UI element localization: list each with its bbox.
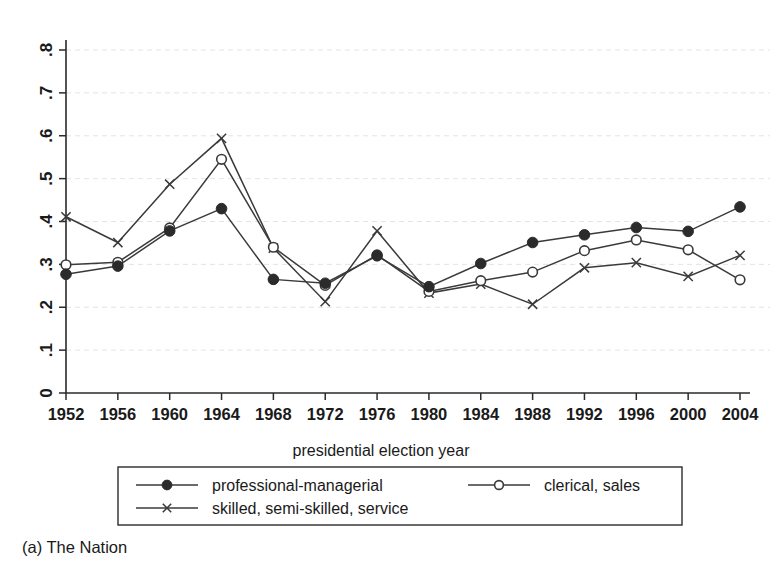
- marker-filled-circle: [164, 226, 175, 237]
- series-0: [61, 202, 746, 292]
- marker-open-circle: [476, 276, 486, 286]
- marker-filled-circle: [320, 278, 331, 289]
- x-tick-label: 2000: [670, 405, 707, 423]
- series-line: [66, 207, 740, 287]
- y-tick-label: 0: [37, 388, 56, 397]
- y-tick-label: .8: [37, 43, 56, 57]
- marker-filled-circle: [372, 251, 383, 262]
- marker-open-circle: [495, 481, 504, 490]
- marker-filled-circle: [162, 480, 172, 490]
- x-tick-label: 1976: [359, 405, 396, 423]
- marker-filled-circle: [424, 281, 435, 292]
- marker-cross-x: [528, 300, 537, 309]
- x-axis-ticks: 1952195619601964196819721976198019841988…: [48, 393, 760, 423]
- x-tick-label: 2004: [722, 405, 760, 423]
- series-1: [61, 155, 745, 297]
- gridlines: [66, 50, 770, 350]
- line-chart: 0.1.2.3.4.5.6.7.8 1952195619601964196819…: [0, 0, 779, 581]
- marker-open-circle: [580, 246, 590, 256]
- x-tick-label: 1984: [462, 405, 500, 423]
- marker-filled-circle: [735, 202, 746, 213]
- legend-label: skilled, semi-skilled, service: [212, 500, 409, 517]
- marker-filled-circle: [683, 226, 694, 237]
- x-tick-label: 1964: [203, 405, 241, 423]
- x-tick-label: 1996: [618, 405, 655, 423]
- marker-cross-x: [684, 272, 693, 281]
- x-tick-label: 1980: [411, 405, 448, 423]
- figure-caption: (a) The Nation: [22, 538, 127, 557]
- x-tick-label: 1968: [255, 405, 292, 423]
- y-tick-label: .7: [37, 86, 56, 100]
- y-tick-label: .2: [37, 300, 56, 314]
- y-tick-label: .4: [37, 214, 56, 229]
- marker-open-circle: [61, 260, 71, 270]
- y-tick-label: .6: [37, 129, 56, 143]
- figure-panel: 0.1.2.3.4.5.6.7.8 1952195619601964196819…: [0, 0, 779, 581]
- x-tick-label: 1956: [99, 405, 136, 423]
- marker-cross-x: [321, 297, 330, 306]
- marker-cross-x: [113, 238, 122, 247]
- y-tick-label: .1: [37, 343, 56, 357]
- marker-cross-x: [735, 251, 744, 260]
- marker-filled-circle: [61, 269, 72, 280]
- x-tick-label: 1952: [48, 405, 85, 423]
- marker-filled-circle: [216, 203, 227, 214]
- marker-open-circle: [632, 235, 642, 245]
- legend-label: clerical, sales: [544, 477, 640, 494]
- marker-cross-x: [372, 226, 381, 235]
- marker-filled-circle: [268, 274, 279, 285]
- marker-open-circle: [269, 242, 279, 252]
- x-tick-label: 1960: [151, 405, 188, 423]
- marker-filled-circle: [113, 261, 124, 272]
- marker-filled-circle: [527, 237, 538, 248]
- marker-filled-circle: [631, 222, 642, 233]
- y-tick-label: .5: [37, 172, 56, 186]
- legend-label: professional-managerial: [212, 477, 383, 494]
- marker-filled-circle: [579, 229, 590, 240]
- marker-open-circle: [683, 245, 693, 255]
- x-tick-label: 1992: [566, 405, 603, 423]
- marker-open-circle: [528, 267, 538, 277]
- chart-legend: professional-managerialclerical, salessk…: [118, 467, 682, 525]
- y-tick-label: .3: [37, 257, 56, 271]
- marker-cross-x: [217, 134, 226, 143]
- x-axis-title: presidential election year: [293, 442, 471, 459]
- marker-open-circle: [217, 155, 227, 165]
- marker-filled-circle: [475, 258, 486, 269]
- marker-open-circle: [735, 275, 745, 285]
- x-tick-label: 1972: [307, 405, 344, 423]
- marker-cross-x: [165, 180, 174, 189]
- x-tick-label: 1988: [514, 405, 551, 423]
